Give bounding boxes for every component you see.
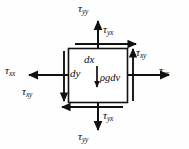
tau-yx-bottom-label: τyx [103,110,113,123]
tau-xy-right-label: τxy [136,47,146,60]
tau-yy-bottom-subscript: yy [82,135,88,144]
tau-yx-top-subscript: yx [107,28,113,37]
tau-xy-left-subscript: xy [26,90,32,99]
tau-xy-left-label: τxy [22,86,32,99]
tau-xy-right-subscript: xy [140,51,146,60]
tau-yx-bottom-subscript: yx [107,114,113,123]
tau-xx-right-subscript: xx [163,69,169,78]
body-force-label: ρgdv [100,73,120,84]
tau-xx-right-label: τxx [159,65,169,78]
tau-yy-top-subscript: yy [82,7,88,16]
dx-label: dx [84,54,94,65]
tau-yx-top-label: τyx [103,24,113,37]
tau-xx-left-label: τxx [5,65,15,78]
tau-yy-top-label: τyy [78,3,88,16]
stress-element-diagram: τyy τyx τxy τxx τxx τxy τyx τyy dx dy ρg… [0,0,189,149]
tau-xx-left-subscript: xx [9,69,15,78]
tau-yy-bottom-label: τyy [78,131,88,144]
dy-label: dy [70,68,80,79]
